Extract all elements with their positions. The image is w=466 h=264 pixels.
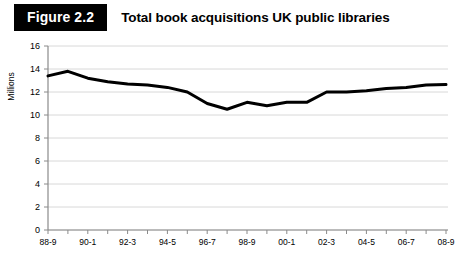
chart-container: 0246810121416 88-990-192-394-596-798-900… <box>0 34 466 264</box>
x-tick-label: 88-9 <box>39 237 56 247</box>
x-tick-label: 92-3 <box>119 237 136 247</box>
y-tick-label: 14 <box>30 64 40 74</box>
y-tick-label: 8 <box>35 133 40 143</box>
figure-title: Total book acquisitions UK public librar… <box>121 10 390 25</box>
y-tick-label: 6 <box>35 156 40 166</box>
y-tick-label: 2 <box>35 202 40 212</box>
y-tick-label: 12 <box>30 87 40 97</box>
y-tick-label: 16 <box>30 41 40 51</box>
figure-header: Figure 2.2 Total book acquisitions UK pu… <box>0 0 466 34</box>
data-series-line <box>48 71 446 109</box>
figure-number-badge: Figure 2.2 <box>14 4 107 31</box>
y-tick-label: 10 <box>30 110 40 120</box>
x-tick-label: 02-3 <box>318 237 335 247</box>
x-tick-label: 94-5 <box>159 237 176 247</box>
gridlines-group <box>48 46 448 230</box>
x-tick-label: 98-9 <box>238 237 255 247</box>
y-axis-ticks-group: 0246810121416 <box>30 41 48 235</box>
y-axis-label: Millions <box>6 72 16 100</box>
y-tick-label: 4 <box>35 179 40 189</box>
x-tick-label: 00-1 <box>278 237 295 247</box>
x-tick-label: 06-7 <box>398 237 415 247</box>
x-tick-label: 90-1 <box>79 237 96 247</box>
y-tick-label: 0 <box>35 225 40 235</box>
x-tick-label: 08-9 <box>437 237 454 247</box>
x-tick-label: 96-7 <box>199 237 216 247</box>
line-chart: 0246810121416 88-990-192-394-596-798-900… <box>0 34 466 264</box>
x-tick-label: 04-5 <box>358 237 375 247</box>
x-axis-ticks-group: 88-990-192-394-596-798-900-102-304-506-7… <box>39 230 454 247</box>
